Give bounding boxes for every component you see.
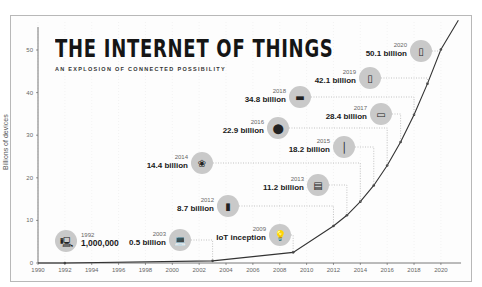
annotation-year: 2016 xyxy=(223,119,264,126)
x-tick-label: 2012 xyxy=(327,267,341,273)
traffic-light-icon: ⬤ xyxy=(272,123,283,135)
annotation-2012: 20128.7 billion xyxy=(177,197,214,213)
x-tick-label: 1992 xyxy=(58,267,72,273)
x-tick-label: 2018 xyxy=(407,267,421,273)
annotation-2009: 2009IoT inception xyxy=(216,226,266,242)
y-tick-label: 0 xyxy=(30,260,34,266)
leader-line xyxy=(291,235,293,252)
x-tick-label: 2020 xyxy=(434,267,448,273)
annotation-year: 2020 xyxy=(366,42,407,49)
annotation-value: 42.1 billion xyxy=(315,76,356,85)
x-tick-label: 2006 xyxy=(246,267,260,273)
x-tick-label: 2004 xyxy=(219,267,233,273)
wind-turbine-icon: ❀ xyxy=(198,158,206,169)
lightbulb-icon: 💡 xyxy=(274,229,286,242)
annotation-value: IoT inception xyxy=(216,233,266,242)
annotation-year: 2013 xyxy=(263,176,304,183)
leader-line xyxy=(432,50,441,51)
tablet-icon: ▭ xyxy=(376,109,385,120)
annotation-2016: 201622.9 billion xyxy=(223,119,264,135)
leader-line xyxy=(191,240,213,261)
chart-title: THE INTERNET OF THINGS xyxy=(55,34,334,63)
annotation-2017: 201728.4 billion xyxy=(326,105,367,121)
data-point xyxy=(426,82,429,85)
chart-subtitle: AN EXPLOSION OF CONNECTED POSSIBILITY xyxy=(55,66,226,72)
streetlight-icon: │ xyxy=(341,141,347,154)
annotation-2019: 201942.1 billion xyxy=(315,69,356,85)
data-point xyxy=(292,251,295,254)
data-point xyxy=(211,260,214,263)
y-tick-label: 10 xyxy=(26,217,33,223)
annotation-year: 2003 xyxy=(129,231,166,238)
annotation-value: 28.4 billion xyxy=(326,112,367,121)
y-tick-label: 50 xyxy=(26,47,33,53)
leader-line xyxy=(392,114,401,142)
y-tick-label: 30 xyxy=(26,132,33,138)
data-point xyxy=(64,262,67,265)
annotation-year: 2018 xyxy=(245,88,286,95)
x-tick-label: 1994 xyxy=(85,267,99,273)
x-tick-label: 2016 xyxy=(381,267,395,273)
annotation-value: 34.8 billion xyxy=(245,95,286,104)
annotation-value: 22.9 billion xyxy=(223,126,264,135)
leader-line xyxy=(355,147,374,185)
thermostat-icon: ▮ xyxy=(225,201,231,212)
annotation-year: 2014 xyxy=(147,154,188,161)
annotation-value: 14.4 billion xyxy=(147,161,188,170)
annotation-value: 50.1 billion xyxy=(366,49,407,58)
annotation-2015: 201518.2 billion xyxy=(289,138,330,154)
router-icon: ▤ xyxy=(313,180,322,191)
annotation-value: 18.2 billion xyxy=(289,145,330,154)
annotation-year: 2019 xyxy=(315,69,356,76)
door-lock-icon: ▯ xyxy=(367,73,373,84)
annotation-year: 2017 xyxy=(326,105,367,112)
tv-icon: ▬ xyxy=(295,92,304,103)
y-axis-label: Billions of devices xyxy=(2,114,9,170)
annotation-2013: 201311.2 billion xyxy=(263,176,304,192)
annotation-value: 1,000,000 xyxy=(81,239,119,248)
annotation-value: 8.7 billion xyxy=(177,204,214,213)
annotation-2020: 202050.1 billion xyxy=(366,42,407,58)
x-tick-label: 1998 xyxy=(139,267,153,273)
computer-icon: 🖳 xyxy=(60,236,73,247)
annotation-value: 11.2 billion xyxy=(263,183,304,192)
annotation-2014: 201414.4 billion xyxy=(147,154,188,170)
annotation-year: 2015 xyxy=(289,138,330,145)
annotation-2018: 201834.8 billion xyxy=(245,88,286,104)
x-tick-label: 2008 xyxy=(273,267,287,273)
x-tick-label: 2010 xyxy=(300,267,314,273)
annotation-2003: 20030.5 billion xyxy=(129,231,166,247)
x-tick-label: 2000 xyxy=(166,267,180,273)
data-point xyxy=(372,184,375,187)
annotation-1992: 19921,000,000 xyxy=(81,232,119,248)
leader-line xyxy=(329,185,347,215)
x-tick-label: 2014 xyxy=(354,267,368,273)
y-tick-label: 40 xyxy=(26,90,33,96)
leader-line xyxy=(381,78,427,84)
annotation-year: 2012 xyxy=(177,197,214,204)
annotation-year: 2009 xyxy=(216,226,266,233)
x-tick-label: 1990 xyxy=(31,267,45,273)
laptop-icon: 💻 xyxy=(174,235,187,247)
annotation-value: 0.5 billion xyxy=(129,238,166,247)
x-tick-label: 2002 xyxy=(192,267,206,273)
refrigerator-icon: ▯ xyxy=(418,46,424,57)
x-tick-label: 1996 xyxy=(112,267,126,273)
y-tick-label: 20 xyxy=(26,175,33,181)
